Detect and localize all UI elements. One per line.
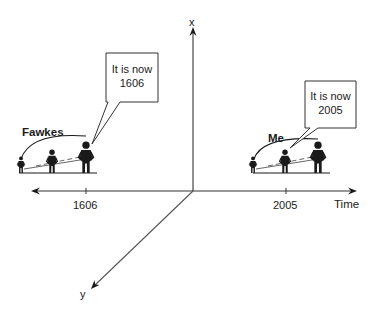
speech-line-1: It is now	[305, 89, 356, 103]
arc-line	[21, 135, 86, 159]
me-label: Me	[268, 133, 284, 145]
time-axis-label: Time	[334, 199, 359, 211]
y-axis-label: y	[80, 289, 86, 300]
speech-bubble-me-text: It is now 2005	[305, 89, 356, 117]
time-axis	[31, 188, 357, 195]
speech-bubble-fawkes-text: It is now 1606	[106, 62, 158, 90]
fawkes-label: Fawkes	[22, 127, 64, 139]
tick-label-2005: 2005	[273, 200, 297, 211]
speech-line-2: 1606	[106, 76, 158, 90]
person-medium-icon	[280, 150, 291, 173]
person-large-icon	[311, 142, 326, 174]
x-axis	[190, 27, 197, 191]
person-medium-icon	[47, 150, 58, 173]
diagram-canvas	[0, 0, 374, 313]
person-small-icon	[17, 157, 25, 174]
person-large-icon	[79, 142, 94, 174]
tick-label-1606: 1606	[73, 200, 97, 211]
speech-line-2: 2005	[305, 103, 356, 117]
person-small-icon	[249, 157, 257, 174]
y-axis	[91, 191, 193, 289]
speech-line-1: It is now	[106, 62, 158, 76]
x-axis-label: x	[189, 17, 195, 28]
